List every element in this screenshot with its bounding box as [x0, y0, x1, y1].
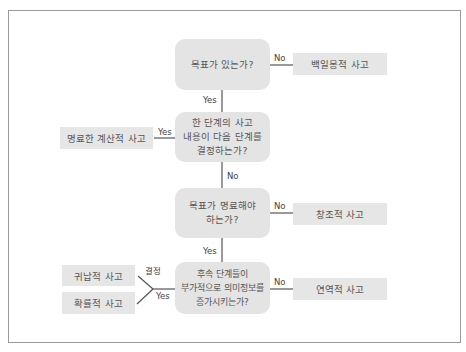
result-deductive-thinking: 연역적 사고 [293, 278, 387, 300]
edge-label-d2-yes: Yes [158, 127, 172, 137]
edge-label-d3-no: No [274, 201, 286, 211]
result-clear-computational-thinking: 명료한 계산적 사고 [60, 127, 153, 149]
result-probabilistic-thinking: 확률적 사고 [62, 292, 135, 314]
result-creative-thinking: 창조적 사고 [293, 203, 387, 225]
result-daydream-thinking: 백일몽적 사고 [293, 53, 387, 75]
edge-label-d1-no: No [274, 53, 286, 63]
edge-label-d2-no: No [227, 171, 239, 181]
edge-label-d3-yes: Yes [203, 246, 217, 256]
edge-label-d4-yes: Yes [156, 291, 170, 301]
decision-goal-must-be-clear: 목표가 명료해야 하는가? [175, 188, 270, 238]
result-inductive-thinking: 귀납적 사고 [62, 265, 135, 286]
decision-adds-semantic-info: 후속 단계들이 부가적으로 의미정보를 증가시키는가? [175, 262, 270, 314]
decision-step-determines-next: 한 단계의 사고 내용이 다음 단계를 결정하는가? [175, 112, 270, 162]
edge-label-d4-no: No [274, 277, 286, 287]
edge-label-d4-decision: 결정 [145, 264, 161, 276]
decision-has-goal: 목표가 있는가? [175, 39, 270, 90]
edge-label-d1-yes: Yes [203, 95, 217, 105]
